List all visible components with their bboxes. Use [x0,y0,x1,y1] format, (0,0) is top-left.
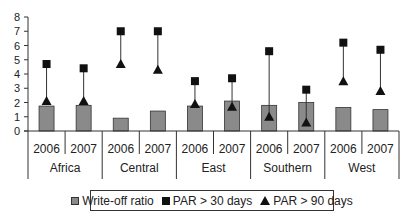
year-label: 2007 [70,142,97,156]
x-axis: 2006200720062007200620072006200720062007… [24,131,399,179]
year-label: 2007 [144,142,171,156]
gray-square-swatch-icon [71,197,79,205]
black-triangle-marker-icon [260,196,270,205]
region-label: Africa [50,161,81,175]
year-label: 2006 [182,142,209,156]
y-tick-label: 2 [14,97,20,109]
y-tick-label: 4 [14,68,20,80]
write-off-bar [187,106,202,131]
y-axis: 012345678 [14,11,28,137]
region-label: West [348,161,376,175]
write-off-bar [113,118,128,131]
legend-label: PAR > 30 days [173,194,253,208]
write-off-bar [76,105,91,131]
par90-triangle-marker [153,65,163,74]
y-tick-label: 3 [14,82,20,94]
y-tick-label: 0 [14,125,20,137]
year-label: 2007 [367,142,394,156]
par30-square-marker [154,27,162,35]
year-label: 2006 [33,142,60,156]
legend: Write-off ratio PAR > 30 days PAR > 90 d… [90,190,334,211]
markers [42,27,386,126]
y-tick-label: 6 [14,40,20,52]
par30-square-marker [191,77,199,85]
year-label: 2007 [219,142,246,156]
legend-item-par30: PAR > 30 days [162,194,253,208]
y-tick-label: 5 [14,54,20,66]
legend-label: PAR > 90 days [273,194,353,208]
region-label: East [201,161,226,175]
par90-triangle-marker [190,99,200,108]
y-tick-label: 1 [14,111,20,123]
par30-square-marker [228,74,236,82]
par30-square-marker [376,46,384,54]
write-off-bar [336,107,351,131]
black-square-marker-icon [162,197,170,205]
par90-triangle-marker [42,96,52,105]
write-off-bar [39,106,54,131]
year-label: 2006 [256,142,283,156]
par30-square-marker [302,86,310,94]
par30-square-marker [43,60,51,68]
par90-triangle-marker [79,96,89,105]
year-label: 2006 [107,142,134,156]
bars [39,101,388,131]
legend-item-par90: PAR > 90 days [260,194,353,208]
y-tick-label: 8 [14,11,20,23]
legend-item-write-off: Write-off ratio [71,194,154,208]
par30-square-marker [339,39,347,47]
region-label: Southern [263,161,312,175]
legend-label: Write-off ratio [82,194,154,208]
y-tick-label: 7 [14,25,20,37]
par90-triangle-marker [116,59,126,68]
par90-triangle-marker [338,76,348,85]
par30-square-marker [265,47,273,55]
region-label: Central [120,161,159,175]
year-label: 2007 [293,142,320,156]
par30-square-marker [80,64,88,72]
write-off-bar [373,110,388,131]
par-range-lines [47,31,381,122]
par90-triangle-marker [375,86,385,95]
write-off-bar [150,111,165,131]
year-label: 2006 [330,142,357,156]
par30-square-marker [117,27,125,35]
